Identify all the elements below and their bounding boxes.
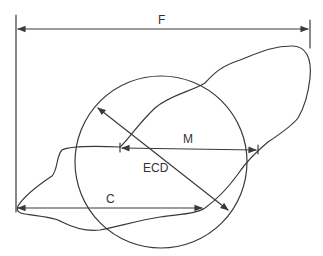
ecd-arrow <box>98 108 228 210</box>
martin-label: M <box>183 132 193 146</box>
particle-size-diagram: F M ECD C <box>0 0 323 256</box>
chord-label: C <box>106 192 115 206</box>
particle-outline <box>17 46 310 230</box>
ecd-label: ECD <box>143 161 169 175</box>
feret-label: F <box>158 13 165 27</box>
martin-arrow <box>122 148 256 150</box>
